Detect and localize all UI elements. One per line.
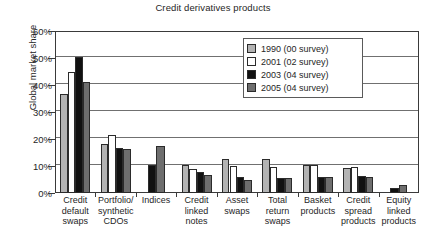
y-tick-label: 30% [8, 107, 52, 118]
bar [148, 165, 157, 193]
y-tick-label: 50% [8, 53, 52, 64]
bar [60, 94, 67, 193]
bar [310, 165, 317, 193]
bar [83, 82, 90, 193]
bar [116, 148, 123, 193]
bar [237, 177, 244, 193]
legend-swatch-icon [247, 44, 256, 53]
bar [108, 135, 115, 193]
legend-label: 2001 (02 survey) [261, 57, 329, 67]
legend-item[interactable]: 2001 (02 survey) [247, 55, 360, 68]
bar-group [176, 31, 216, 193]
bar [156, 146, 165, 193]
bar [358, 176, 365, 193]
legend-item[interactable]: 2003 (04 survey) [247, 68, 360, 81]
bar [197, 172, 204, 193]
bar [189, 169, 196, 193]
y-tick-label: 10% [8, 161, 52, 172]
bar-group [379, 31, 419, 193]
bar [285, 178, 292, 193]
bar [262, 159, 269, 193]
bar [244, 180, 251, 194]
bar-group [55, 31, 95, 193]
bar [123, 149, 130, 193]
legend-label: 1990 (00 survey) [261, 44, 329, 54]
legend-swatch-icon [247, 70, 256, 79]
legend-item[interactable]: 1990 (00 survey) [247, 42, 360, 55]
bar [270, 167, 277, 193]
bar [230, 166, 237, 193]
x-axis-label: Equitylinkedproducts [375, 195, 423, 227]
bar [399, 185, 408, 193]
y-tick-mark [48, 166, 55, 167]
y-axis-title: Global market share [27, 0, 38, 148]
bars-layer [55, 31, 419, 193]
legend-label: 2005 (04 survey) [261, 83, 329, 93]
legend-label: 2003 (04 survey) [261, 70, 329, 80]
bar-group [136, 31, 176, 193]
bar [303, 165, 310, 193]
y-tick-mark [48, 112, 55, 113]
bar [68, 72, 75, 194]
y-tick-mark [48, 31, 55, 32]
bar [277, 178, 284, 193]
y-tick-mark [48, 58, 55, 59]
chart-legend: 1990 (00 survey)2001 (02 survey)2003 (04… [243, 38, 363, 98]
legend-swatch-icon [247, 57, 256, 66]
bar [325, 177, 332, 193]
bar [182, 165, 189, 193]
legend-item[interactable]: 2005 (04 survey) [247, 81, 360, 94]
bar [390, 188, 399, 193]
y-tick-label: 40% [8, 80, 52, 91]
chart-title: Credit derivatives products [0, 2, 426, 13]
y-tick-label: 0% [8, 188, 52, 199]
bar [343, 168, 350, 193]
bar [222, 159, 229, 193]
bar [366, 177, 373, 193]
y-tick-mark [48, 85, 55, 86]
y-tick-mark [48, 193, 55, 194]
bar [101, 144, 108, 193]
y-tick-label: 60% [8, 26, 52, 37]
bar [318, 177, 325, 193]
caption-sliver [0, 236, 426, 242]
bar [351, 167, 358, 193]
bar [75, 57, 82, 193]
y-tick-label: 20% [8, 134, 52, 145]
y-tick-mark [48, 139, 55, 140]
x-axis-labels: CreditdefaultswapsPortfolio/syntheticCDO… [55, 195, 419, 240]
bar [204, 175, 211, 193]
legend-swatch-icon [247, 83, 256, 92]
bar-group [95, 31, 135, 193]
